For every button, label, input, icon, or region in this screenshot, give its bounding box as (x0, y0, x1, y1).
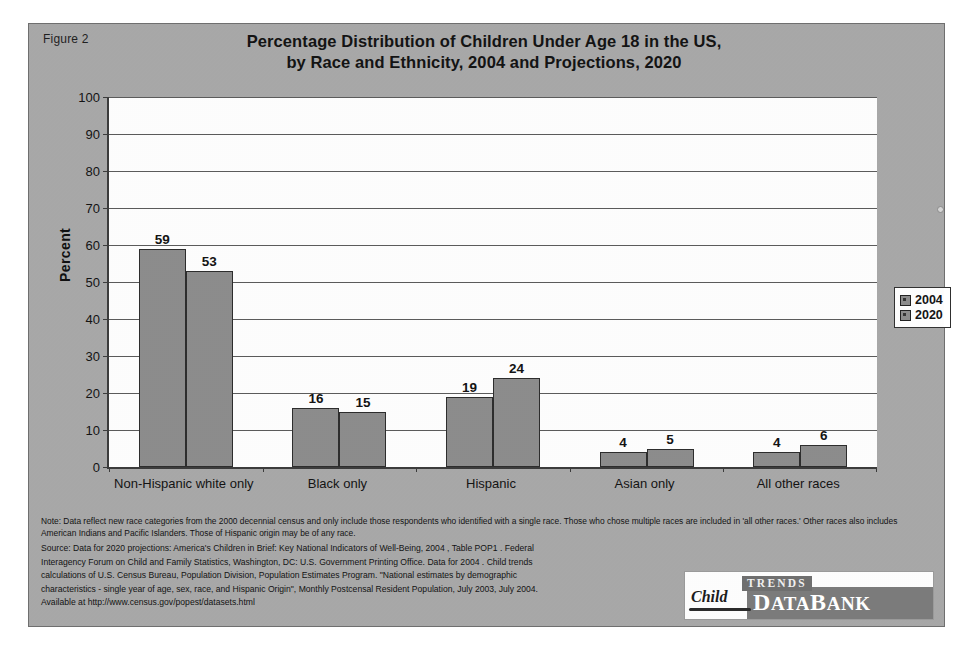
bar-value-label: 15 (355, 395, 370, 410)
bar-value-label: 16 (308, 391, 323, 406)
bars-layer: 5953161519244546 (109, 97, 877, 467)
x-axis-labels: Non-Hispanic white onlyBlack onlyHispani… (107, 476, 877, 516)
bar-group: 45 (570, 97, 724, 467)
x-axis-category-label: Hispanic (414, 476, 568, 491)
bar-2020-non-hispanic-white-only[interactable]: 53 (186, 271, 233, 467)
bar-value-label: 5 (666, 432, 674, 447)
x-axis-tick (723, 467, 724, 472)
chart-legend: 20042020 (894, 287, 951, 328)
x-axis-tick (109, 467, 110, 472)
bar-group: 46 (723, 97, 877, 467)
source-line-5: Available at http://www.census.gov/popes… (41, 596, 681, 610)
y-axis-tick-label: 30 (86, 349, 100, 364)
bar-group: 1615 (263, 97, 417, 467)
x-axis-category-label: Non-Hispanic white only (107, 476, 261, 491)
chart-note: Note: Data reflect new race categories f… (41, 515, 934, 539)
bar-2004-non-hispanic-white-only[interactable]: 59 (139, 249, 186, 467)
bar-2020-all-other-races[interactable]: 6 (800, 445, 847, 467)
y-axis-tick-label: 60 (86, 238, 100, 253)
y-axis-tick-label: 50 (86, 275, 100, 290)
bar-2004-hispanic[interactable]: 19 (446, 397, 493, 467)
logo-child-underline (689, 608, 751, 611)
x-axis-tick (416, 467, 417, 472)
logo-child-text: Child (691, 588, 727, 606)
y-axis-tick-label: 80 (86, 164, 100, 179)
figure-label: Figure 2 (43, 32, 89, 46)
legend-label: 2020 (915, 308, 943, 322)
bar-2004-asian-only[interactable]: 4 (600, 452, 647, 467)
legend-label: 2004 (915, 293, 943, 307)
logo-databank-ata: ATA (771, 593, 810, 614)
y-axis-tick-label: 100 (78, 90, 100, 105)
source-line-3: calculations of U.S. Census Bureau, Popu… (41, 569, 681, 583)
bar-value-label: 24 (509, 361, 524, 376)
logo-databank-ank: ANK (827, 593, 871, 614)
y-axis-title: Percent (57, 228, 73, 282)
y-axis-tick-label: 10 (86, 423, 100, 438)
logo-databank-b: B (810, 589, 827, 615)
bar-value-label: 59 (155, 232, 170, 247)
bar-2004-all-other-races[interactable]: 4 (753, 452, 800, 467)
legend-item-2020[interactable]: 2020 (900, 308, 943, 322)
chart-title-line-2: by Race and Ethnicity, 2004 and Projecti… (99, 52, 869, 73)
source-line-2: Interagency Forum on Child and Family St… (41, 556, 681, 570)
bar-group: 5953 (109, 97, 263, 467)
legend-swatch-icon (900, 310, 911, 321)
bar-2020-black-only[interactable]: 15 (339, 412, 386, 468)
chart-title: Percentage Distribution of Children Unde… (99, 31, 869, 73)
logo-trends-text: TRENDS (742, 576, 812, 591)
bar-value-label: 4 (773, 435, 781, 450)
logo-databank-d: D (753, 589, 771, 615)
figure-frame: Figure 2 Percentage Distribution of Chil… (28, 23, 945, 627)
bar-value-label: 6 (820, 428, 828, 443)
scan-artifact-speck (937, 206, 944, 213)
bar-value-label: 19 (462, 380, 477, 395)
x-axis-category-label: All other races (721, 476, 875, 491)
y-axis-tick-label: 40 (86, 312, 100, 327)
chart-source: Source: Data for 2020 projections: Ameri… (41, 542, 681, 610)
legend-swatch-icon (900, 295, 911, 306)
legend-item-2004[interactable]: 2004 (900, 293, 943, 307)
bar-value-label: 4 (619, 435, 627, 450)
x-axis-category-label: Asian only (568, 476, 722, 491)
x-axis-category-label: Black only (261, 476, 415, 491)
chart-title-line-1: Percentage Distribution of Children Unde… (99, 31, 869, 52)
plot-area: 0102030405060708090100 5953161519244546 (107, 97, 877, 469)
y-axis-tick-label: 70 (86, 201, 100, 216)
x-axis-tick (570, 467, 571, 472)
bar-2004-black-only[interactable]: 16 (292, 408, 339, 467)
x-axis-tick (876, 467, 877, 472)
y-axis-tick-label: 0 (93, 460, 100, 475)
source-line-1: Source: Data for 2020 projections: Ameri… (41, 542, 681, 556)
y-axis-tick-label: 20 (86, 386, 100, 401)
bar-group: 1924 (416, 97, 570, 467)
x-axis-tick (263, 467, 264, 472)
logo-databank-text: DATABANK (747, 587, 933, 619)
bar-2020-hispanic[interactable]: 24 (493, 378, 540, 467)
bar-2020-asian-only[interactable]: 5 (647, 449, 694, 468)
child-trends-databank-logo: TRENDS DATABANK Child (684, 571, 934, 620)
bar-value-label: 53 (202, 254, 217, 269)
source-line-4: characteristics - single year of age, se… (41, 583, 681, 597)
y-axis-tick-label: 90 (86, 127, 100, 142)
